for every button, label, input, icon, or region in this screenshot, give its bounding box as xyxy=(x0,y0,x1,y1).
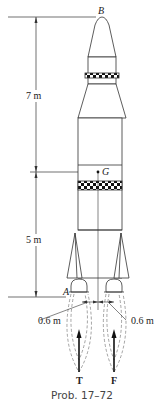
point-a-label: A xyxy=(63,287,69,297)
point-b-label: B xyxy=(98,6,104,16)
force-f-label: F xyxy=(111,376,117,386)
dimension-right-offset-label: 0.6 m xyxy=(131,316,154,326)
dimension-left-offset-label: 0.6 m xyxy=(38,316,61,326)
point-g-label: G xyxy=(102,167,109,177)
rocket-diagram xyxy=(0,0,164,405)
center-of-mass-point xyxy=(97,171,100,174)
force-t-label: T xyxy=(76,376,83,386)
exhaust-plumes xyxy=(67,294,126,372)
dimension-lower-label: 5 m xyxy=(26,234,41,246)
figure-caption: Prob. 17–72 xyxy=(0,389,164,401)
dimension-upper-label: 7 m xyxy=(26,90,41,102)
rocket-body xyxy=(67,17,129,310)
